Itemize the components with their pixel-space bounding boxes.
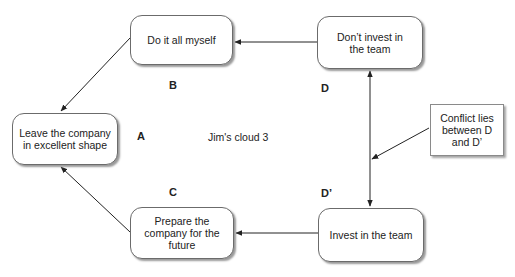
arrow-b-to-a xyxy=(61,38,130,111)
node-c-prepare-company: Prepare the company for the future xyxy=(130,207,234,259)
conflict-note-text: Conflict lies between D and D’ xyxy=(436,112,498,148)
node-d-text: Don’t invest in the team xyxy=(330,31,410,55)
arrow-c-to-a xyxy=(61,167,130,232)
node-b-text: Do it all myself xyxy=(147,34,215,46)
node-a-leave-company: Leave the company in excellent shape xyxy=(12,113,118,165)
label-dprime: D’ xyxy=(321,187,332,199)
node-dprime-invest: Invest in the team xyxy=(318,208,424,262)
diagram-title: Jim's cloud 3 xyxy=(208,131,268,143)
node-d-dont-invest: Don’t invest in the team xyxy=(317,16,423,69)
node-dprime-text: Invest in the team xyxy=(330,229,413,241)
label-c: C xyxy=(169,186,177,198)
node-c-text: Prepare the company for the future xyxy=(141,215,223,251)
conflict-note: Conflict lies between D and D’ xyxy=(430,104,504,156)
arrow-note-to-conflict xyxy=(372,128,429,159)
label-b: B xyxy=(169,79,177,91)
label-d: D xyxy=(321,82,329,94)
label-a: A xyxy=(137,130,145,142)
node-a-text: Leave the company in excellent shape xyxy=(17,127,113,151)
node-b-do-it-all-myself: Do it all myself xyxy=(130,15,233,65)
